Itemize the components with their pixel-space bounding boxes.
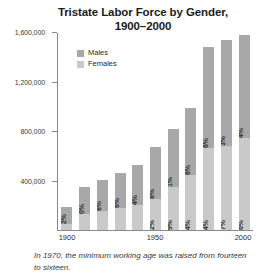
bar-label-male-pct: 84% [132,196,138,206]
bar-segment-female: 29% [168,187,179,230]
bar-segment-male: 92% [61,207,72,223]
bar-label-female-pct: 34% [185,220,191,230]
bar-segment-female [115,208,126,230]
bar-segment-female: 34% [185,175,196,230]
x-tick-label-2000: 2000 [235,233,252,242]
bar-label-female-pct: 37% [221,220,227,230]
bar-label-female-pct: 46% [239,220,245,230]
bar-segment-male: 88% [97,180,108,211]
bar-1970: 66% 34% [185,108,196,230]
bar-segment-female: 46% [239,138,250,230]
bar-1900: 92% [61,207,72,230]
bar-label-male-pct: 66% [185,165,191,175]
bar-segment-male: 71% [168,129,179,188]
bar-label-male-pct: 66% [203,138,209,148]
bar-label-female-pct: 22% [150,220,156,230]
bar-segment-female: 22% [150,199,161,230]
x-tick-label-1900: 1900 [59,233,76,242]
chart-caption: In 1970, the minimum working age was rai… [34,250,249,273]
chart-title: Tristate Labor Force by Gender, 1900–200… [30,6,256,33]
x-tick-label-1950: 1950 [147,233,164,242]
plot-area: 400,000 800,000 1,200,000 1,600,000 Male… [57,33,253,231]
bar-segment-male: 90% [79,187,90,214]
y-tick-label-800000: 800,000 [20,128,45,135]
bar-1930: 86% [115,173,126,230]
bar-label-male-pct: 90% [79,204,85,214]
bar-1990: 63% 37% [221,40,232,230]
bar-label-male-pct: 54% [239,129,245,139]
x-axis-line [57,230,253,231]
y-tick-label-1600000: 1,600,000 [15,29,45,36]
bar-segment-male: 66% [203,47,214,148]
bar-label-male-pct: 63% [221,137,227,147]
bar-segment-female [79,214,90,230]
bar-label-male-pct: 71% [168,178,174,188]
bar-segment-male: 63% [221,40,232,146]
bar-1950: 78% 22% [150,147,161,230]
bar-1940: 84% [132,165,143,230]
bar-label-male-pct: 86% [115,199,121,209]
bar-label-male-pct: 92% [61,214,67,224]
bar-segment-female: 37% [221,146,232,230]
bar-label-male-pct: 78% [150,189,156,199]
bar-label-female-pct: 34% [203,220,209,230]
bar-segment-female [61,224,72,230]
bar-1910: 90% [79,187,90,230]
bar-segment-male: 86% [115,173,126,208]
bar-segment-female: 34% [203,148,214,230]
bar-segment-female [132,205,143,230]
bar-label-female-pct: 29% [168,220,174,230]
bar-segment-male: 84% [132,165,143,205]
bar-segment-male: 78% [150,147,161,198]
bar-1980: 66% 34% [203,47,214,230]
bar-1920: 88% [97,180,108,230]
y-tick-800000: 800,000 [52,131,57,132]
x-axis-labels: 1900 1950 2000 [57,233,253,245]
bar-1960: 71% 29% [168,129,179,230]
bar-label-male-pct: 88% [97,201,103,211]
bar-2000: 54% 46% [239,35,250,230]
chart-figure: Tristate Labor Force by Gender, 1900–200… [0,0,260,275]
y-tick-label-400000: 400,000 [20,177,45,184]
chart-title-line1: Tristate Labor Force by Gender, [58,6,228,18]
chart-title-line2: 1900–2000 [115,20,172,32]
chart-caption-line1: In 1970, the minimum working age was [34,251,173,260]
bar-segment-male: 66% [185,108,196,175]
y-tick-1200000: 1,200,000 [52,82,57,83]
bar-segment-female [97,211,108,230]
y-tick-1600000: 1,600,000 [52,32,57,33]
y-tick-400000: 400,000 [52,181,57,182]
bar-group: 92% 90% 88% 86% [58,33,253,230]
y-tick-label-1200000: 1,200,000 [15,78,45,85]
bar-segment-male: 54% [239,35,250,138]
